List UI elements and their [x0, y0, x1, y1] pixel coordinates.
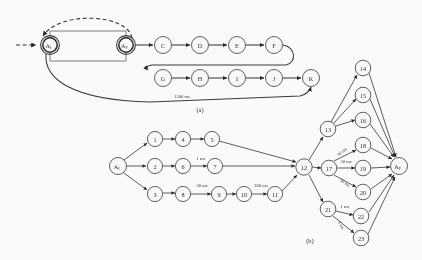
node-a-I[interactable]: I: [229, 70, 246, 87]
edge-label-b-8-9: 50 ms: [196, 183, 207, 188]
node-b-23[interactable]: 23: [353, 230, 369, 246]
node-b-19-label: 19: [360, 165, 366, 172]
node-a-I-label: I: [236, 75, 238, 82]
node-b-16-label: 16: [360, 117, 366, 124]
node-a-H[interactable]: H: [192, 70, 209, 87]
node-b-AI[interactable]: AI: [110, 158, 127, 175]
node-b-12[interactable]: 12: [296, 159, 312, 175]
figure-svg: AI AF C D E: [0, 0, 422, 260]
node-b-7[interactable]: 7: [207, 158, 222, 173]
figure-canvas: AI AF C D E: [0, 0, 422, 260]
node-b-17-label: 17: [326, 165, 332, 172]
node-a-AI[interactable]: AI: [41, 36, 60, 55]
node-a-AF[interactable]: AF: [117, 36, 136, 55]
node-b-1[interactable]: 1: [147, 131, 162, 146]
node-a-G-label: G: [161, 75, 166, 82]
edge-b-13-16: [336, 120, 355, 126]
feedback-arrow-dashed: [43, 18, 132, 38]
panel-a-group: AI AF C D E: [16, 18, 320, 102]
edge-b-11-12: [282, 175, 297, 191]
node-b-6-label: 6: [181, 163, 184, 170]
node-b-5[interactable]: 5: [204, 131, 219, 146]
caption-a: (a): [196, 106, 203, 114]
node-b-12-label: 12: [301, 164, 307, 171]
node-a-K-label: K: [309, 75, 314, 82]
edge-b-12-17: [312, 167, 321, 168]
node-b-5-label: 5: [210, 136, 213, 143]
edge-label-b-17-18: 50 ms: [336, 146, 348, 157]
edge-label-b-21-23: 1 ms: [337, 220, 346, 230]
node-a-G[interactable]: G: [155, 70, 172, 87]
node-b-23-label: 23: [358, 235, 364, 242]
node-b-6[interactable]: 6: [175, 158, 190, 173]
node-a-E-label: E: [235, 42, 239, 49]
node-b-1-label: 1: [153, 136, 156, 143]
edge-label-1500ms: 1500 ms: [174, 94, 190, 99]
node-b-10-label: 10: [241, 191, 247, 198]
node-b-18-label: 18: [360, 142, 366, 149]
edge-b-AI-1: [124, 143, 147, 160]
caption-b: (b): [306, 237, 314, 245]
edge-b-23-AF: [368, 177, 395, 234]
edge-b-12-13: [309, 137, 323, 160]
edge-label-b-17-19: 50 ms: [340, 159, 351, 164]
node-b-3-label: 3: [153, 191, 156, 198]
node-b-21[interactable]: 21: [320, 201, 336, 217]
node-b-15-label: 15: [360, 92, 366, 99]
node-b-11[interactable]: 11: [267, 186, 282, 201]
node-b-20-label: 20: [360, 189, 366, 196]
node-b-8[interactable]: 8: [175, 186, 190, 201]
node-b-21-label: 21: [325, 206, 331, 213]
node-a-D[interactable]: D: [192, 37, 209, 54]
node-b-15[interactable]: 15: [355, 87, 371, 103]
node-b-3[interactable]: 3: [147, 186, 162, 201]
node-b-10[interactable]: 10: [236, 186, 251, 201]
node-b-22[interactable]: 22: [353, 208, 369, 224]
node-a-F[interactable]: F: [266, 37, 283, 54]
edge-b-5-12: [219, 141, 296, 162]
node-b-17[interactable]: 17: [321, 160, 337, 176]
node-b-2[interactable]: 2: [147, 158, 162, 173]
panel-b-group: AI 1 2 3 4 5: [110, 60, 408, 246]
node-b-8-label: 8: [181, 191, 184, 198]
node-b-14-label: 14: [360, 65, 366, 72]
node-b-7-label: 7: [213, 163, 216, 170]
node-b-AF[interactable]: AF: [391, 158, 408, 175]
edge-b-15-AF: [370, 99, 395, 157]
node-b-20[interactable]: 20: [355, 184, 371, 200]
node-b-14[interactable]: 14: [355, 60, 371, 76]
edge-b-14-AF: [369, 73, 396, 157]
edge-b-13-14: [331, 75, 357, 122]
node-b-16[interactable]: 16: [355, 112, 371, 128]
node-b-11-label: 11: [272, 191, 278, 198]
edge-b-20-AF: [371, 174, 392, 189]
node-a-D-label: D: [198, 42, 203, 49]
node-b-18[interactable]: 18: [355, 137, 371, 153]
node-a-C-label: C: [161, 42, 165, 49]
node-b-9[interactable]: 9: [211, 186, 226, 201]
edge-label-b-6-7: 1 ms: [197, 156, 206, 161]
edge-label-b-10-11: 200 ms: [254, 183, 268, 188]
node-b-22-label: 22: [358, 213, 364, 220]
node-b-2-label: 2: [153, 163, 156, 170]
edge-b-21-22: [336, 211, 353, 215]
node-a-E[interactable]: E: [229, 37, 246, 54]
node-b-13-label: 13: [325, 126, 331, 133]
node-a-K[interactable]: K: [303, 70, 320, 87]
node-b-4-label: 4: [181, 136, 184, 143]
node-b-13[interactable]: 13: [320, 121, 336, 137]
node-b-19[interactable]: 19: [355, 160, 371, 176]
edge-b-12-21: [309, 175, 323, 202]
node-a-F-label: F: [272, 42, 276, 49]
edge-b-AI-3: [124, 173, 147, 190]
edge-label-b-17-20: 50 ms: [339, 177, 351, 188]
edge-label-b-21-22: 1 ms: [341, 204, 350, 209]
edge-b-19-AF: [371, 167, 390, 168]
node-b-4[interactable]: 4: [175, 131, 190, 146]
node-a-H-label: H: [198, 75, 203, 82]
node-b-9-label: 9: [217, 191, 220, 198]
node-a-C[interactable]: C: [155, 37, 172, 54]
node-a-J[interactable]: J: [266, 70, 283, 87]
